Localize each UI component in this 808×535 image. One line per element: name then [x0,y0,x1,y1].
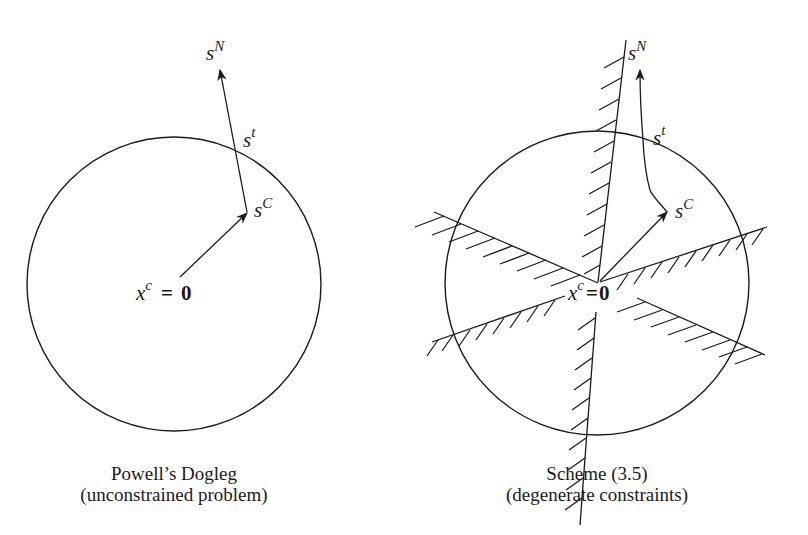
diagram-canvas: sN st sC xc=0 [0,0,808,535]
label-origin: xc=0 [135,277,191,305]
label-st: st [243,124,256,152]
label-st: st [653,122,666,150]
left-caption: Powell’s Dogleg (unconstrained problem) [24,463,324,505]
right-caption: Scheme (3.5) (degenerate constraints) [447,463,747,505]
constraint-upper-vertical [582,40,626,282]
left-figure: sN st sC xc=0 [27,38,321,431]
right-caption-subtitle: (degenerate constraints) [447,484,747,505]
trust-region-circle [27,137,321,431]
cauchy-step-arrow [180,213,247,277]
label-sC: sC [254,195,273,222]
label-origin: xc=0 [567,277,609,305]
label-sN: sN [628,38,647,65]
constraint-lower-right [617,298,765,364]
left-caption-subtitle: (unconstrained problem) [24,484,324,505]
left-caption-title: Powell’s Dogleg [24,463,324,484]
label-sN: sN [206,38,225,65]
constraint-lower-left [427,296,565,356]
constraint-upper-left [415,212,598,286]
right-figure: sN st sC xc=0 [415,38,767,525]
label-sC: sC [675,196,694,223]
right-caption-title: Scheme (3.5) [447,463,747,484]
